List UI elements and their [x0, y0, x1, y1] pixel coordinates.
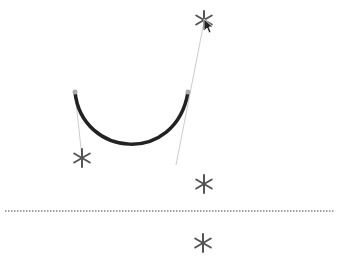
star-left-icon[interactable] — [74, 149, 90, 167]
bezier-curve[interactable] — [75, 92, 188, 144]
star-below-line-icon[interactable] — [195, 234, 211, 252]
curve-endpoints[interactable] — [73, 90, 191, 95]
diagram-canvas — [0, 0, 338, 263]
endpoint-handle[interactable] — [73, 90, 78, 95]
endpoint-handle[interactable] — [186, 90, 191, 95]
mouse-cursor-icon — [204, 19, 213, 33]
star-bottom-right-icon[interactable] — [196, 175, 212, 193]
